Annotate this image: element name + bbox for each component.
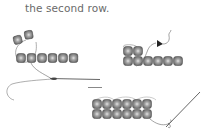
step-b-diagram bbox=[123, 30, 182, 66]
step-c-diagram bbox=[88, 88, 200, 128]
step-a-diagram bbox=[7, 30, 100, 100]
beading-diagram bbox=[0, 0, 202, 134]
